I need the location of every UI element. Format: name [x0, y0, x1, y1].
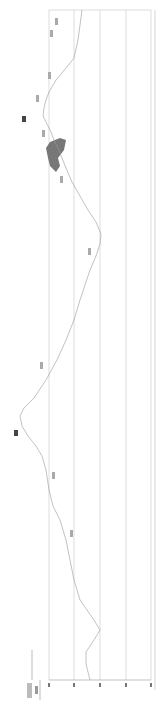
annotation-label [36, 95, 39, 102]
annotations [14, 18, 91, 537]
tick-label [48, 683, 50, 687]
annotation-label [70, 530, 73, 537]
annotation-label [14, 430, 18, 436]
gridlines [48, 10, 152, 687]
axis-label-block [27, 683, 32, 698]
annotation-label [88, 248, 91, 255]
annotation-label [55, 18, 58, 25]
elevation-profile-chart [0, 0, 160, 704]
profile-line [20, 10, 101, 680]
tick-label [99, 683, 101, 687]
annotation-label [60, 176, 63, 183]
annotation-label [40, 362, 43, 369]
annotation-label [42, 130, 45, 137]
annotation-label [48, 72, 51, 79]
annotation-label [50, 30, 53, 37]
annotation-label [52, 472, 55, 479]
tick-label [125, 683, 127, 687]
tick-label [150, 683, 152, 687]
tick-label [73, 683, 75, 687]
axis-unit-block [35, 686, 38, 694]
annotation-label [22, 116, 26, 122]
